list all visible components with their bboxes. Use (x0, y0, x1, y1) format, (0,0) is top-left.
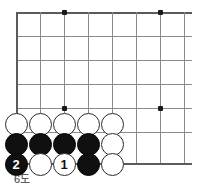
grid-line-vertical (160, 12, 161, 163)
go-board: 21 (0, 0, 207, 172)
grid-line-horizontal (16, 12, 192, 14)
diagram-caption: 6도 (14, 170, 30, 186)
grid-line-vertical (136, 12, 137, 163)
grid-line-horizontal (16, 84, 192, 85)
grid-line-horizontal (16, 36, 192, 37)
star-point-bottom-right (158, 106, 163, 111)
stone-move-number: 2 (12, 157, 19, 170)
star-point-top-left (62, 10, 67, 15)
white-stone-move-1: 1 (53, 153, 76, 176)
grid-line-horizontal (16, 108, 192, 109)
grid-line-horizontal (16, 60, 192, 61)
stone-move-number: 1 (60, 157, 67, 170)
star-point-top-right (158, 10, 163, 15)
white-stone-r3c2 (29, 153, 52, 176)
black-stone-r3c4 (77, 153, 100, 176)
go-diagram-screenshot: 21 6도 (0, 0, 207, 190)
white-stone-r3c5 (101, 153, 124, 176)
grid-line-vertical (184, 12, 185, 163)
star-point-bottom-left (62, 106, 67, 111)
